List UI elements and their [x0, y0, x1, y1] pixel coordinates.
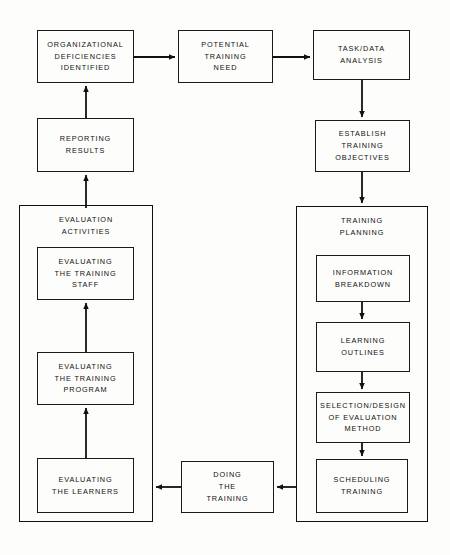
node-label: REPORTING RESULTS — [58, 133, 113, 157]
node-reporting-results[interactable]: REPORTING RESULTS — [37, 118, 134, 172]
node-organizational-deficiencies-identified[interactable]: ORGANIZATIONAL DEFICIENCIES IDENTIFIED — [37, 30, 134, 83]
node-label: SCHEDULING TRAINING — [332, 474, 393, 498]
node-label: INFORMATION BREAKDOWN — [331, 267, 395, 291]
node-establish-training-objectives[interactable]: ESTABLISH TRAINING OBJECTIVES — [315, 120, 410, 172]
node-doing-the-training[interactable]: DOING THE TRAINING — [181, 461, 274, 513]
node-task-data-analysis[interactable]: TASK/DATA ANALYSIS — [313, 30, 410, 80]
group-training-planning-title: TRAINING PLANNING — [297, 215, 427, 239]
node-selection-design-of-evaluation-method[interactable]: SELECTION/DESIGN OF EVALUATION METHOD — [316, 392, 410, 443]
node-evaluating-the-training-staff[interactable]: EVALUATING THE TRAINING STAFF — [37, 247, 134, 300]
node-potential-training-need[interactable]: POTENTIAL TRAINING NEED — [178, 30, 273, 83]
node-label: ESTABLISH TRAINING OBJECTIVES — [333, 128, 391, 163]
node-scheduling-training[interactable]: SCHEDULING TRAINING — [316, 459, 408, 513]
group-evaluation-activities-title: EVALUATION ACTIVITIES — [20, 214, 152, 238]
flowchart-canvas: EVALUATION ACTIVITIES TRAINING PLANNING … — [0, 0, 450, 555]
node-label: EVALUATING THE LEARNERS — [50, 474, 121, 498]
node-label: TASK/DATA ANALYSIS — [336, 43, 387, 67]
node-label: POTENTIAL TRAINING NEED — [199, 39, 252, 74]
node-label: ORGANIZATIONAL DEFICIENCIES IDENTIFIED — [45, 39, 126, 74]
node-label: DOING THE TRAINING — [204, 469, 250, 504]
node-evaluating-the-learners[interactable]: EVALUATING THE LEARNERS — [37, 458, 134, 513]
node-label: EVALUATING THE TRAINING STAFF — [52, 256, 118, 291]
node-information-breakdown[interactable]: INFORMATION BREAKDOWN — [316, 255, 410, 302]
node-label: SELECTION/DESIGN OF EVALUATION METHOD — [318, 400, 408, 435]
node-learning-outlines[interactable]: LEARNING OUTLINES — [316, 322, 410, 372]
node-evaluating-the-training-program[interactable]: EVALUATING THE TRAINING PROGRAM — [37, 352, 134, 405]
node-label: LEARNING OUTLINES — [339, 335, 388, 359]
node-label: EVALUATING THE TRAINING PROGRAM — [52, 361, 118, 396]
